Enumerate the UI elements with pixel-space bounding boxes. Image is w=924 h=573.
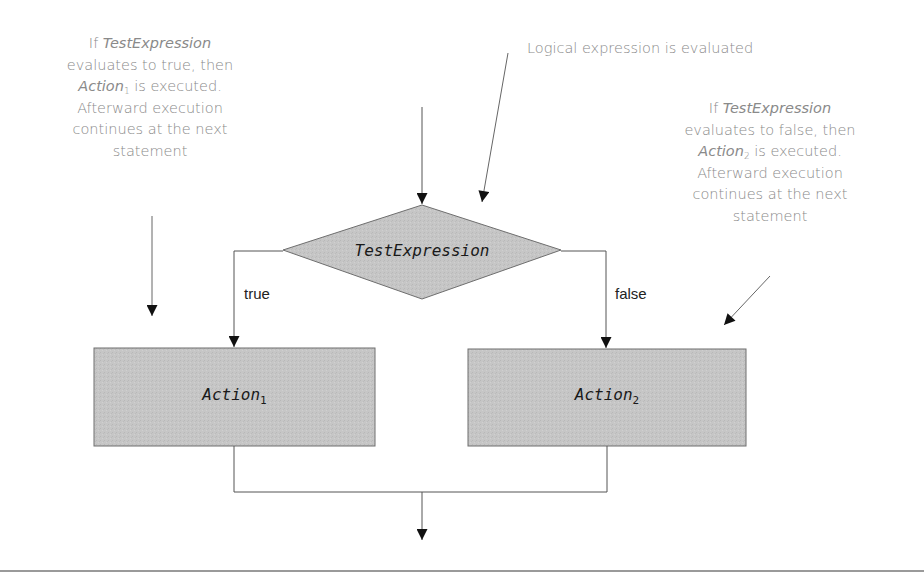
annotation-right-l1-prefix: If xyxy=(709,100,723,116)
annotation-left-l6: statement xyxy=(40,141,260,163)
action-2-label-text: Action xyxy=(575,385,633,404)
merge-connector xyxy=(234,446,607,492)
annotation-right-l2: evaluates to false, then xyxy=(650,120,890,142)
action-1-subscript: 1 xyxy=(260,394,267,407)
decision-label-text: TestExpression xyxy=(355,241,490,260)
annotation-pointer-top xyxy=(482,53,508,202)
annotation-top-text: Logical expression is evaluated xyxy=(527,38,753,60)
annotation-top: Logical expression is evaluated xyxy=(527,38,753,60)
annotation-left-l1-italic: TestExpression xyxy=(103,35,211,51)
decision-label: TestExpression xyxy=(283,241,561,260)
annotation-right: If TestExpression evaluates to false, th… xyxy=(650,98,890,227)
annotation-right-l4: Afterward execution xyxy=(650,163,890,185)
false-branch-label: false xyxy=(615,285,647,302)
annotation-right-l6: statement xyxy=(650,206,890,228)
annotation-right-l5: continues at the next xyxy=(650,184,890,206)
annotation-left-l1-prefix: If xyxy=(89,35,103,51)
annotation-left: If TestExpression evaluates to true, the… xyxy=(40,33,260,162)
annotation-right-l3-suffix: is executed. xyxy=(750,143,842,159)
annotation-right-l3-italic: Action xyxy=(698,143,744,159)
annotation-left-l2: evaluates to true, then xyxy=(40,55,260,77)
action-1-label: Action1 xyxy=(94,385,375,404)
action-1-label-text: Action xyxy=(202,385,260,404)
action-2-subscript: 2 xyxy=(633,394,640,407)
annotation-pointer-right xyxy=(724,276,770,325)
action-2-label: Action2 xyxy=(468,385,746,404)
true-branch-label: true xyxy=(244,285,270,302)
annotation-left-l3-suffix: is executed. xyxy=(130,78,222,94)
annotation-left-l3-italic: Action xyxy=(78,78,124,94)
annotation-right-l1-italic: TestExpression xyxy=(723,100,831,116)
false-branch-connector xyxy=(561,251,606,348)
annotation-left-l5: continues at the next xyxy=(40,119,260,141)
annotation-left-l4: Afterward execution xyxy=(40,98,260,120)
